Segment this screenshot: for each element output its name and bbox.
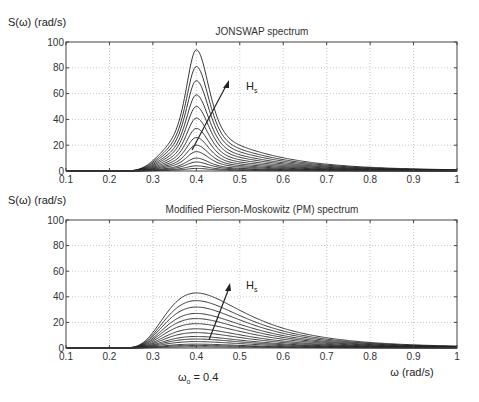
y-tick-label: 20 (53, 140, 65, 151)
x-tick-label: 0.3 (146, 351, 160, 362)
y-tick-label: 20 (53, 317, 65, 328)
spectra-figure: S(ω) (rad/s) JONSWAP spectrum 0.10.20.30… (0, 0, 479, 402)
x-tick-label: 1 (454, 351, 460, 362)
y-tick-label: 40 (53, 114, 65, 125)
y-tick-label: 40 (53, 291, 65, 302)
jonswap-panel: S(ω) (rad/s) JONSWAP spectrum 0.10.20.30… (8, 16, 460, 185)
bottom-hs-label: Hs (246, 279, 258, 293)
x-tick-label: 0.3 (146, 174, 160, 185)
bottom-y-axis-label: S(ω) (rad/s) (8, 194, 66, 206)
y-tick-label: 0 (58, 343, 64, 354)
bottom-curves (66, 293, 457, 348)
x-tick-label: 0.2 (102, 174, 116, 185)
x-tick-label: 0.9 (407, 174, 421, 185)
pm-panel: S(ω) (rad/s) Modified Pierson-Moskowitz … (8, 194, 460, 362)
bottom-chart-title: Modified Pierson-Moskowitz (PM) spectrum (166, 204, 359, 215)
x-tick-label: 0.4 (189, 351, 203, 362)
x-tick-label: 0.9 (407, 351, 421, 362)
x-tick-label: 0.5 (233, 351, 247, 362)
x-tick-label: 0.5 (233, 174, 247, 185)
x-tick-label: 0.4 (189, 174, 203, 185)
y-tick-label: 0 (58, 166, 64, 177)
x-tick-label: 0.8 (363, 174, 377, 185)
top-hs-arrow (192, 80, 229, 150)
x-tick-label: 0.7 (320, 174, 334, 185)
x-tick-label: 1 (454, 174, 460, 185)
x-tick-label: 0.2 (102, 351, 116, 362)
top-grid (66, 42, 457, 171)
x-tick-label: 0.6 (276, 174, 290, 185)
y-tick-label: 80 (53, 240, 65, 251)
top-chart-title: JONSWAP spectrum (216, 26, 309, 37)
omega0-annotation: ωo = 0.4 (178, 371, 218, 385)
x-tick-label: 0.7 (320, 351, 334, 362)
x-tick-label: 0.6 (276, 351, 290, 362)
y-tick-label: 100 (47, 215, 64, 226)
y-tick-label: 100 (47, 37, 64, 48)
y-tick-label: 60 (53, 88, 65, 99)
x-axis-label: ω (rad/s) (390, 366, 433, 378)
top-y-axis-label: S(ω) (rad/s) (8, 16, 66, 28)
top-hs-label: Hs (246, 80, 258, 94)
x-tick-label: 0.8 (363, 351, 377, 362)
y-tick-label: 80 (53, 62, 65, 73)
y-tick-label: 60 (53, 266, 65, 277)
bottom-grid (66, 220, 457, 348)
